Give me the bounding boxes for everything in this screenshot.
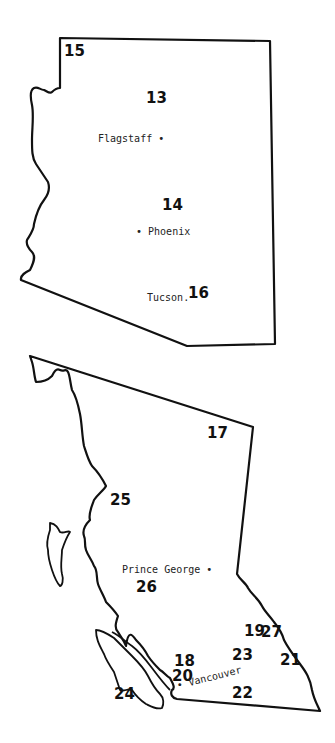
site-marker-14: 14 xyxy=(162,198,183,213)
site-marker-23: 23 xyxy=(232,648,253,663)
site-marker-26: 26 xyxy=(136,580,157,595)
city-name: Tucson xyxy=(147,292,183,303)
city-name: Flagstaff xyxy=(98,133,152,144)
haida-gwaii-outline xyxy=(47,523,70,586)
city-name: Prince George xyxy=(122,564,200,575)
site-marker-25: 25 xyxy=(110,493,131,508)
site-marker-22: 22 xyxy=(232,686,253,701)
site-marker-21: 21 xyxy=(280,653,301,668)
city-name: Phoenix xyxy=(148,226,190,237)
city-label-tucson: Tucson. xyxy=(147,293,189,303)
site-marker-15: 15 xyxy=(64,44,85,59)
site-marker-17: 17 xyxy=(207,426,228,441)
site-marker-13: 13 xyxy=(146,91,167,106)
map-canvas xyxy=(0,0,335,743)
city-label-prince-george: Prince George • xyxy=(122,565,212,575)
coastal-channel xyxy=(112,632,170,690)
site-marker-16: 16 xyxy=(188,286,209,301)
site-marker-27: 27 xyxy=(261,625,282,640)
site-marker-24: 24 xyxy=(114,687,135,702)
city-label-flagstaff: Flagstaff • xyxy=(98,134,164,144)
city-label-phoenix: • Phoenix xyxy=(136,227,190,237)
